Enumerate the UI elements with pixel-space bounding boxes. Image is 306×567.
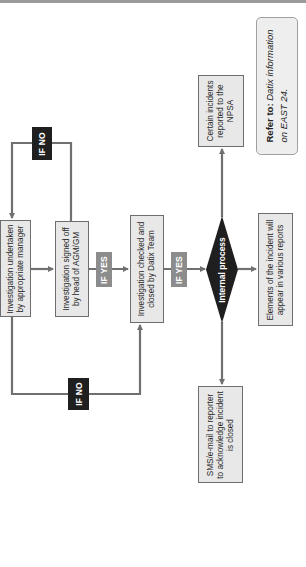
node-text-line: appear in various reports [276, 219, 286, 320]
node-text-line: by head of AGM/GM [72, 227, 82, 311]
decision-label: Internal process [217, 237, 227, 303]
decision-internal-process: Internal process [206, 216, 238, 323]
refer-italic: Datix information [264, 30, 275, 101]
node-text-line: is closed [226, 391, 236, 478]
refer-bold: Refer to: [264, 103, 275, 142]
node-text-line: Certain incidents [206, 81, 216, 142]
tag-label: IF NO [74, 382, 84, 406]
refer-to-note: Refer to: Datix information on EAST 24. [256, 17, 298, 155]
tag-label: IF NO [37, 132, 47, 156]
tag-label: IF YES [99, 256, 109, 284]
node-text-line: NPSA [226, 81, 236, 142]
node-investigation-checked: Investigation checked and closed by Dati… [130, 215, 164, 323]
node-text-line: Investigation signed off [62, 227, 72, 311]
if-no-tag-bottom: IF NO [68, 378, 89, 410]
node-text-line: Investigation checked and [137, 222, 147, 317]
node-certain-incidents-npsa: Certain incidents reported to the NPSA [198, 75, 244, 147]
node-investigation-undertaken: Investigation undertaken by appropriate … [0, 220, 31, 317]
node-text-line: to acknowledge incident [216, 391, 226, 478]
if-no-tag-top: IF NO [32, 127, 52, 160]
refer-italic: on EAST 24. [278, 89, 289, 143]
if-yes-tag-2: IF YES [171, 252, 187, 287]
if-yes-tag-1: IF YES [96, 252, 112, 287]
node-text-line: closed by Datix Team [147, 222, 157, 317]
node-text-line: Investigation undertaken [6, 224, 16, 313]
node-text-line: reported to the [216, 81, 226, 142]
node-sms-email-reporter: SMS/e-mail to reporter to acknowledge in… [198, 386, 243, 483]
tag-label: IF YES [174, 256, 184, 284]
node-elements-in-reports: Elements of the incident will appear in … [258, 213, 293, 326]
node-investigation-signed-off: Investigation signed off by head of AGM/… [55, 221, 89, 317]
node-text-line: Elements of the incident will [266, 219, 276, 320]
node-text-line: by appropriate manager [16, 224, 26, 313]
node-text-line: SMS/e-mail to reporter [206, 391, 216, 478]
